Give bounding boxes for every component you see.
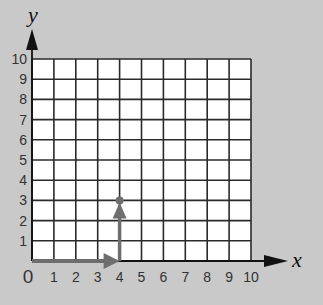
x-tick-label: 1 bbox=[50, 269, 58, 285]
x-tick-label: 6 bbox=[160, 269, 168, 285]
x-tick-label: 7 bbox=[181, 269, 189, 285]
y-tick-label: 6 bbox=[19, 132, 27, 148]
y-axis-label: y bbox=[26, 2, 38, 27]
x-axis-label: x bbox=[291, 247, 302, 272]
coordinate-grid-figure: yx12345678910123456789100 bbox=[0, 0, 323, 305]
y-tick-label: 1 bbox=[19, 233, 27, 249]
x-tick-label: 2 bbox=[72, 269, 80, 285]
y-tick-label: 2 bbox=[19, 213, 27, 229]
y-tick-label: 7 bbox=[19, 112, 27, 128]
y-tick-label: 3 bbox=[19, 192, 27, 208]
y-tick-label: 5 bbox=[19, 152, 27, 168]
coordinate-plane: yx12345678910123456789100 bbox=[0, 0, 323, 305]
origin-label: 0 bbox=[23, 266, 34, 287]
x-tick-label: 5 bbox=[138, 269, 146, 285]
y-tick-label: 9 bbox=[19, 71, 27, 87]
y-axis-arrow-icon bbox=[26, 29, 38, 50]
x-axis-arrow-icon bbox=[264, 255, 288, 267]
y-tick-label: 4 bbox=[19, 172, 27, 188]
y-tick-label: 10 bbox=[11, 51, 27, 67]
x-tick-label: 9 bbox=[225, 269, 233, 285]
point-marker bbox=[116, 196, 124, 204]
x-tick-label: 10 bbox=[243, 269, 259, 285]
x-tick-label: 3 bbox=[94, 269, 102, 285]
x-tick-label: 8 bbox=[203, 269, 211, 285]
y-tick-label: 8 bbox=[19, 91, 27, 107]
x-tick-label: 4 bbox=[116, 269, 124, 285]
